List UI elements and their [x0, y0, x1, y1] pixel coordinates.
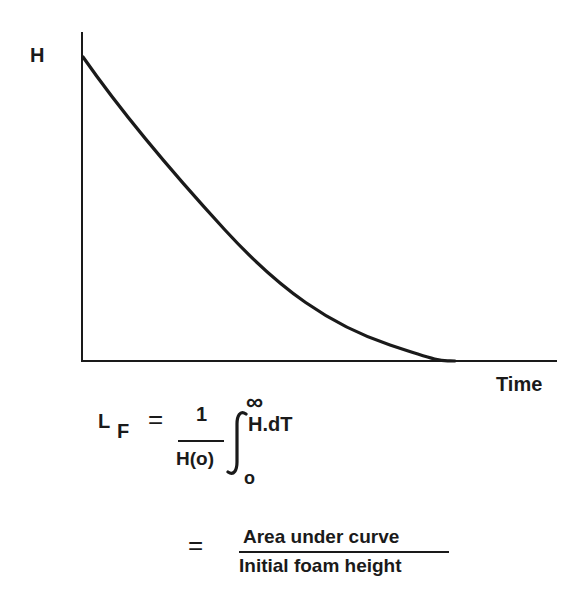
- formula-equals: =: [148, 404, 163, 435]
- integral-icon: [224, 410, 250, 476]
- x-axis-label: Time: [496, 373, 542, 396]
- fraction-denominator: H(o): [176, 448, 214, 470]
- fraction-bar: [178, 440, 224, 442]
- decay-curve: [83, 57, 455, 361]
- integrand: H.dT: [248, 413, 292, 436]
- formula-lhs-subscript: F: [117, 420, 129, 443]
- integral-upper-limit: ∞: [246, 388, 263, 416]
- y-axis-label: H: [30, 44, 44, 67]
- definition-fraction-bar: [239, 551, 449, 553]
- formula-lhs: L: [98, 410, 110, 433]
- integral-lower-limit: o: [244, 468, 255, 489]
- fraction-numerator: 1: [196, 403, 207, 426]
- definition-denominator: Initial foam height: [239, 555, 402, 577]
- foam-decay-plot: [0, 0, 586, 604]
- definition-equals: =: [188, 530, 203, 561]
- definition-numerator: Area under curve: [243, 526, 399, 548]
